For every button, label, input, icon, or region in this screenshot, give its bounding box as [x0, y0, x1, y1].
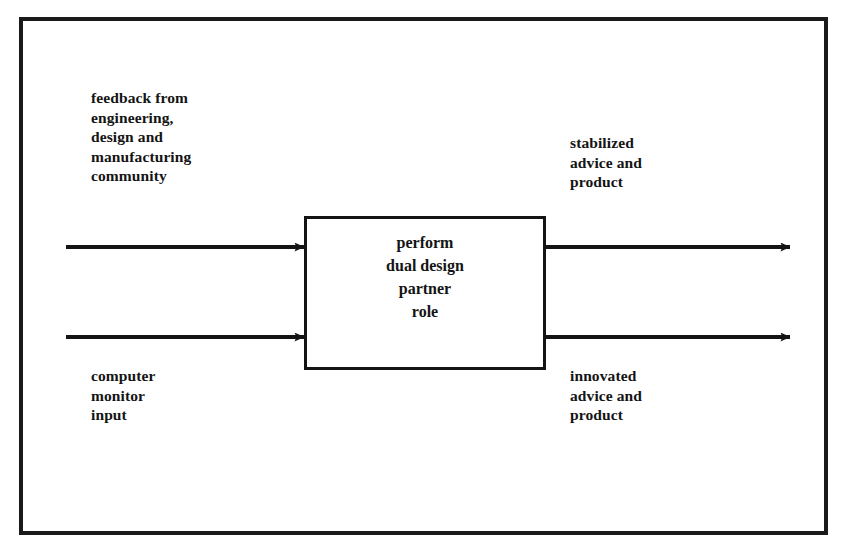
output-label-stabilized: stabilized advice and product: [570, 133, 770, 192]
input-label-feedback: feedback from engineering, design and ma…: [91, 88, 306, 186]
diagram-canvas: perform dual design partner role feedbac…: [0, 0, 846, 557]
input-label-computer-monitor: computer monitor input: [91, 366, 291, 425]
output-label-innovated: innovated advice and product: [570, 366, 770, 425]
process-box-label: perform dual design partner role: [305, 231, 545, 323]
